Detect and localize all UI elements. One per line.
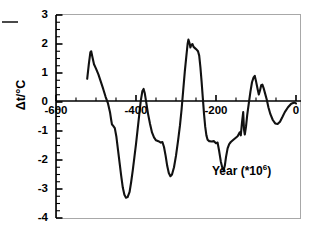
x-axis-annotation: Year (*106): [212, 163, 271, 178]
y-tick-label: 2: [22, 37, 48, 49]
x-axis-group: [56, 95, 301, 101]
y-tick-label: -3: [22, 182, 48, 194]
y-tick-label: 1: [22, 66, 48, 78]
x-tick-label: -200: [196, 104, 236, 116]
annotation-text: Year (*10: [212, 164, 263, 178]
chart-figure: Δt/°C 3210-1-2-3-4 -600-400-2000 Year (*…: [0, 0, 312, 235]
y-axis-group: [56, 15, 63, 218]
x-tick-label: 0: [276, 104, 312, 116]
annotation-close-paren: ): [267, 164, 271, 178]
chart-svg: [0, 0, 312, 235]
y-tick-label: -4: [22, 211, 48, 223]
x-tick-label: -600: [36, 104, 76, 116]
y-tick-label: 3: [22, 8, 48, 20]
y-tick-label: -1: [22, 124, 48, 136]
y-tick-label: -2: [22, 153, 48, 165]
x-tick-label: -400: [116, 104, 156, 116]
